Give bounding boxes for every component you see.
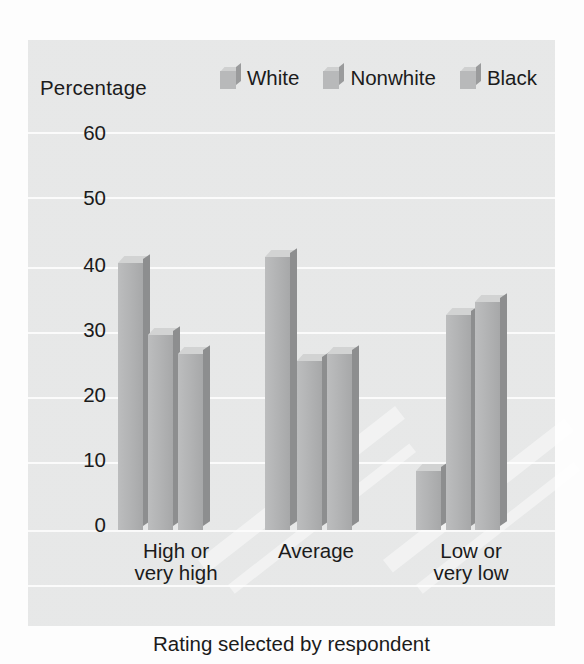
- legend-label: Black: [487, 66, 537, 90]
- bar-front-face: [416, 471, 441, 530]
- legend-item-black[interactable]: Black: [460, 66, 537, 90]
- legend-item-nonwhite[interactable]: Nonwhite: [323, 66, 435, 90]
- gridline-0-baseline: [28, 530, 555, 532]
- bar-white-average[interactable]: [265, 257, 290, 530]
- bar-front-face: [475, 302, 500, 530]
- y-tick-10: 10: [28, 448, 106, 472]
- legend-label: Nonwhite: [350, 66, 435, 90]
- y-tick-20: 20: [28, 383, 106, 407]
- bar-side-face: [203, 345, 210, 526]
- y-tick-40: 40: [28, 253, 106, 277]
- gridline-60: [28, 132, 555, 134]
- bar-side-face: [290, 248, 297, 526]
- gridline-below-axis: [28, 585, 555, 587]
- bar-white-high[interactable]: [118, 263, 143, 530]
- legend: White Nonwhite Black: [220, 66, 561, 90]
- cube-swatch-icon: [323, 67, 343, 89]
- x-category-line2: very high: [96, 562, 256, 584]
- bar-front-face: [297, 361, 322, 530]
- bar-side-face: [500, 293, 507, 526]
- x-category-line1: Average: [236, 540, 396, 562]
- bar-black-high[interactable]: [178, 354, 203, 530]
- y-tick-30: 30: [28, 318, 106, 342]
- bar-front-face: [148, 335, 173, 530]
- x-category-line1: High or: [96, 540, 256, 562]
- bar-front-face: [265, 257, 290, 530]
- bar-front-face: [327, 354, 352, 530]
- x-category-average: Average: [236, 540, 396, 562]
- scanned-page: White Nonwhite Black Percentage 60 50 40…: [0, 0, 584, 664]
- bar-black-low[interactable]: [475, 302, 500, 530]
- bar-side-face: [352, 345, 359, 526]
- bar-nonwhite-low[interactable]: [446, 315, 471, 530]
- x-axis-title: Rating selected by respondent: [28, 632, 555, 656]
- bar-front-face: [178, 354, 203, 530]
- gridline-50: [28, 197, 555, 199]
- legend-item-white[interactable]: White: [220, 66, 299, 90]
- y-axis-title: Percentage: [40, 76, 147, 100]
- x-category-line2: very low: [391, 562, 551, 584]
- bar-front-face: [446, 315, 471, 530]
- bar-black-average[interactable]: [327, 354, 352, 530]
- chart-panel: White Nonwhite Black Percentage 60 50 40…: [28, 40, 555, 626]
- y-tick-50: 50: [28, 186, 106, 210]
- x-category-low: Low or very low: [391, 540, 551, 584]
- y-tick-0: 0: [28, 513, 106, 537]
- bar-white-low[interactable]: [416, 471, 441, 530]
- cube-swatch-icon: [460, 67, 480, 89]
- x-category-line1: Low or: [391, 540, 551, 562]
- cube-swatch-icon: [220, 67, 240, 89]
- x-category-high: High or very high: [96, 540, 256, 584]
- bar-nonwhite-average[interactable]: [297, 361, 322, 530]
- bar-front-face: [118, 263, 143, 530]
- y-tick-60: 60: [28, 121, 106, 145]
- bar-nonwhite-high[interactable]: [148, 335, 173, 530]
- legend-label: White: [247, 66, 299, 90]
